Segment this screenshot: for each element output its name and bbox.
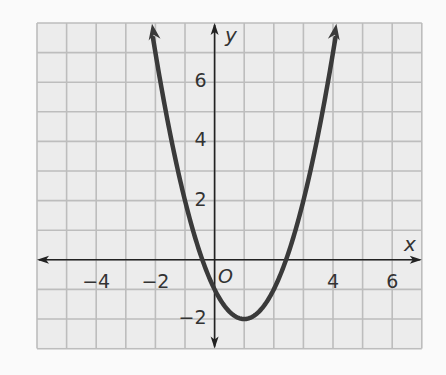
y-axis-label: y	[224, 23, 238, 47]
x-axis-label: x	[403, 232, 416, 256]
parabola-graph: −4−246642−2 x y O	[0, 0, 446, 375]
y-tick-label: −2	[179, 306, 207, 328]
grid-background	[37, 23, 422, 347]
y-tick-label: 6	[195, 69, 207, 91]
x-tick-label: 6	[386, 270, 398, 292]
x-tick-label: −4	[82, 270, 110, 292]
y-tick-label: 2	[195, 188, 207, 210]
origin-label: O	[218, 265, 233, 287]
y-tick-label: 4	[195, 128, 207, 150]
x-tick-label: −2	[141, 270, 169, 292]
x-tick-label: 4	[327, 270, 339, 292]
